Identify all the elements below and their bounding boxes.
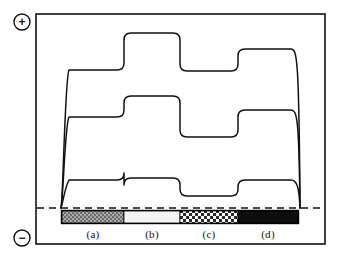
polarity-marker-group: +−	[14, 14, 30, 246]
lane-segment-b[interactable]	[124, 211, 180, 223]
segment-label-c: (c)	[189, 228, 229, 240]
figure-canvas: +− (a)(b)(c)(d)	[0, 0, 339, 261]
lane-segment-a[interactable]	[62, 211, 124, 223]
plus-glyph: +	[18, 15, 25, 29]
minus-glyph: −	[18, 231, 25, 245]
segment-label-a: (a)	[73, 228, 113, 240]
segment-label-b: (b)	[132, 228, 172, 240]
lane-segment-d[interactable]	[238, 211, 298, 223]
lane-bar-group	[61, 210, 299, 224]
trace-bottom	[61, 173, 300, 208]
trace-plot-svg: +−	[0, 0, 339, 261]
trace-group	[61, 33, 300, 208]
lane-segment-c[interactable]	[180, 211, 238, 223]
segment-label-d: (d)	[248, 228, 288, 240]
